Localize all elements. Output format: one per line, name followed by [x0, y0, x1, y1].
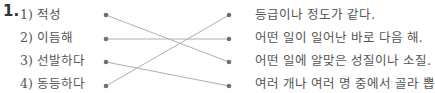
right-dot-2[interactable] [227, 37, 232, 42]
left-dot-1[interactable] [104, 13, 109, 18]
connection-line-3-4 [106, 62, 229, 86]
right-item-2: 어떤 일이 일어난 바로 다음 해. [255, 27, 423, 46]
right-dot-3[interactable] [227, 60, 232, 65]
left-dot-2[interactable] [104, 37, 109, 42]
right-dot-4[interactable] [227, 84, 232, 89]
left-dot-4[interactable] [104, 84, 109, 89]
right-item-4: 여러 개나 여러 명 중에서 골라 뽑 [255, 73, 435, 92]
left-dot-3[interactable] [104, 60, 109, 65]
connection-line-4-1 [106, 15, 229, 86]
right-item-1: 등급이나 정도가 같다. [255, 4, 375, 23]
right-item-3: 어떤 일에 알맞은 성질이나 소질. [255, 50, 431, 69]
right-dot-1[interactable] [227, 13, 232, 18]
